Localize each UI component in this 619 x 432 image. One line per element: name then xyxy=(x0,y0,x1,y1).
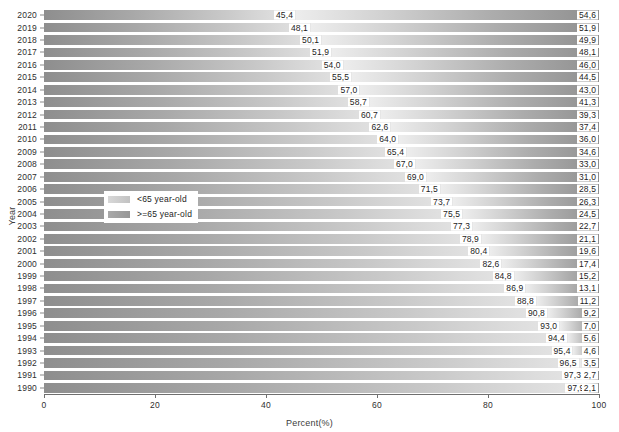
bar-row: 200965,434,6 xyxy=(44,146,599,158)
y-tick-label: 2002 xyxy=(17,234,44,244)
stacked-bar: 69,031,0 xyxy=(44,172,599,182)
x-tick-label: 80 xyxy=(483,400,493,410)
bar-value-under65: 82,6 xyxy=(480,259,501,268)
bar-row: 201162,637,4 xyxy=(44,121,599,133)
legend-item-under65: <65 year-old xyxy=(108,194,192,204)
bar-segment-under65: 58,7 xyxy=(44,97,370,107)
y-tick-label: 2000 xyxy=(17,259,44,269)
bar-segment-under65: 65,4 xyxy=(44,147,407,157)
bar-value-over65: 46,0 xyxy=(577,60,598,69)
legend-label-over65: >=65 year-old xyxy=(137,209,192,219)
bar-segment-over65: 7,0 xyxy=(560,321,599,331)
bar-segment-over65: 39,3 xyxy=(381,110,599,120)
bar-value-over65: 7,0 xyxy=(582,321,598,330)
x-tick-mark xyxy=(266,394,267,398)
y-tick-label: 2014 xyxy=(17,85,44,95)
bar-segment-over65: 22,7 xyxy=(473,222,599,232)
bar-segment-over65: 21,1 xyxy=(482,234,599,244)
x-tick-mark xyxy=(488,394,489,398)
stacked-bar: 51,948,1 xyxy=(44,48,599,58)
bar-row: 199690,89,2 xyxy=(44,307,599,319)
stacked-bar: 90,89,2 xyxy=(44,308,599,318)
bar-value-over65: 43,0 xyxy=(577,85,598,94)
bar-value-under65: 71,5 xyxy=(419,185,440,194)
y-tick-label: 2007 xyxy=(17,172,44,182)
bar-segment-over65: 19,6 xyxy=(490,246,599,256)
stacked-bar: 65,434,6 xyxy=(44,147,599,157)
chart-legend: <65 year-old >=65 year-old xyxy=(104,191,198,223)
bar-value-over65: 21,1 xyxy=(577,234,598,243)
y-tick-label: 1999 xyxy=(17,271,44,281)
y-tick-label: 2018 xyxy=(17,35,44,45)
stacked-bar: 58,741,3 xyxy=(44,97,599,107)
y-tick-label: 2020 xyxy=(17,10,44,20)
bar-value-under65: 65,4 xyxy=(385,147,406,156)
bar-segment-over65: 26,3 xyxy=(453,197,599,207)
bar-segment-over65: 3,5 xyxy=(580,358,599,368)
bar-segment-over65: 15,2 xyxy=(515,271,599,281)
bar-row: 199984,815,2 xyxy=(44,270,599,282)
x-tick-label: 60 xyxy=(372,400,382,410)
stacked-bar: 45,454,6 xyxy=(44,10,599,20)
bar-row: 199788,811,2 xyxy=(44,295,599,307)
bar-segment-under65: 57,0 xyxy=(44,85,360,95)
bar-segment-over65: 31,0 xyxy=(427,172,599,182)
stacked-bar: 62,637,4 xyxy=(44,122,599,132)
bar-value-under65: 55,5 xyxy=(330,73,351,82)
stacked-bar: 48,151,9 xyxy=(44,23,599,33)
bar-value-under65: 50,1 xyxy=(300,36,321,45)
bar-segment-over65: 37,4 xyxy=(391,122,599,132)
y-tick-label: 2003 xyxy=(17,221,44,231)
bar-value-under65: 45,4 xyxy=(274,11,295,20)
bar-value-under65: 77,3 xyxy=(451,222,472,231)
bar-segment-under65: 64,0 xyxy=(44,135,399,145)
y-tick-label: 1995 xyxy=(17,321,44,331)
bar-value-over65: 31,0 xyxy=(577,172,598,181)
x-tick-label: 0 xyxy=(42,400,47,410)
stacked-bar: 55,544,5 xyxy=(44,72,599,82)
x-tick-label: 100 xyxy=(592,400,607,410)
stacked-bar: 64,036,0 xyxy=(44,135,599,145)
bar-segment-under65: 55,5 xyxy=(44,72,352,82)
legend-swatch-under65-icon xyxy=(108,196,130,203)
bar-value-under65: 97,3 xyxy=(562,371,583,380)
x-axis-ticks: 020406080100 xyxy=(44,394,599,414)
bar-value-under65: 90,8 xyxy=(526,309,547,318)
bar-value-under65: 73,7 xyxy=(431,197,452,206)
bar-row: 201948,151,9 xyxy=(44,21,599,33)
bar-segment-under65: 60,7 xyxy=(44,110,381,120)
bar-segment-under65: 80,4 xyxy=(44,246,490,256)
bar-value-over65: 37,4 xyxy=(577,123,598,132)
stacked-bar: 57,043,0 xyxy=(44,85,599,95)
bar-segment-over65: 49,9 xyxy=(322,35,599,45)
x-tick-label: 40 xyxy=(261,400,271,410)
y-tick-label: 2010 xyxy=(17,134,44,144)
y-tick-label: 2009 xyxy=(17,147,44,157)
bar-segment-under65: 48,1 xyxy=(44,23,311,33)
bar-row: 201064,036,0 xyxy=(44,133,599,145)
stacked-bar-chart: Year 202045,454,6201948,151,9201850,149,… xyxy=(0,0,619,432)
bar-segment-over65: 5,6 xyxy=(568,333,599,343)
y-tick-label: 2004 xyxy=(17,209,44,219)
bar-value-under65: 95,4 xyxy=(552,346,573,355)
y-tick-label: 1991 xyxy=(17,370,44,380)
stacked-bar: 60,739,3 xyxy=(44,110,599,120)
bar-value-under65: 78,9 xyxy=(460,234,481,243)
bar-segment-over65: 28,5 xyxy=(441,184,599,194)
bar-value-over65: 54,6 xyxy=(577,11,598,20)
stacked-bar: 97,32,7 xyxy=(44,371,599,381)
bar-segment-under65: 94,4 xyxy=(44,333,568,343)
bar-value-over65: 3,5 xyxy=(582,359,598,368)
bar-segment-over65: 46,0 xyxy=(344,60,599,70)
bar-value-under65: 57,0 xyxy=(338,85,359,94)
x-tick-mark xyxy=(599,394,600,398)
bar-row: 199395,44,6 xyxy=(44,344,599,356)
stacked-bar: 86,913,1 xyxy=(44,284,599,294)
bar-value-over65: 49,9 xyxy=(577,36,598,45)
bar-value-over65: 34,6 xyxy=(577,147,598,156)
bar-segment-under65: 97,9 xyxy=(44,383,587,393)
bar-row: 200180,419,6 xyxy=(44,245,599,257)
bar-segment-under65: 97,3 xyxy=(44,371,584,381)
bar-row: 199593,07,0 xyxy=(44,320,599,332)
bar-segment-over65: 36,0 xyxy=(399,135,599,145)
